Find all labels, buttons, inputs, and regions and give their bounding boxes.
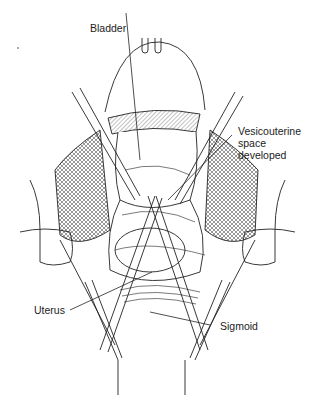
label-bladder: Bladder bbox=[90, 22, 126, 34]
label-sigmoid: Sigmoid bbox=[220, 320, 258, 332]
bladder-dome bbox=[105, 42, 205, 112]
illustration-canvas: Bladder Vesicouterine space developed Ut… bbox=[0, 0, 315, 402]
label-vesicouterine-2: space bbox=[238, 137, 266, 149]
top-retractor bbox=[142, 38, 161, 53]
label-vesicouterine-1: Vesicouterine bbox=[238, 125, 301, 137]
uterus-leader bbox=[70, 272, 152, 310]
label-uterus: Uterus bbox=[34, 304, 65, 316]
sigmoid-leader bbox=[150, 312, 210, 325]
anatomy-drawing bbox=[0, 0, 315, 402]
left-packing bbox=[55, 130, 110, 241]
label-vesicouterine-3: developed bbox=[238, 149, 286, 161]
